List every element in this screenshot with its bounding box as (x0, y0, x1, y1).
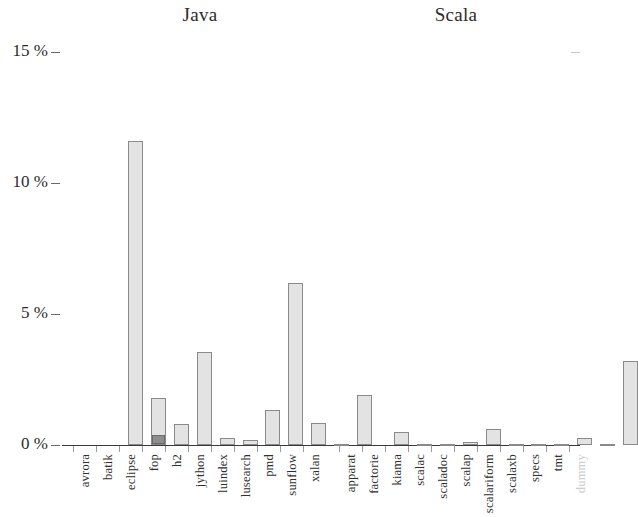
x-axis-tick-mark (234, 446, 235, 452)
bar (334, 444, 349, 446)
bar (623, 361, 638, 445)
x-axis-label-dummy: dummy (574, 454, 589, 493)
bar (417, 444, 432, 446)
x-axis-label-apparat: apparat (344, 454, 359, 492)
bar-dark-segment (152, 435, 165, 444)
bar (600, 444, 615, 446)
x-axis-label-scalac: scalac (413, 454, 428, 486)
x-axis-tick-mark (73, 446, 74, 452)
x-axis-tick-mark (280, 446, 281, 452)
x-axis-label-xalan: xalan (308, 454, 323, 482)
x-axis-tick-mark (211, 446, 212, 452)
x-axis-label-kiama: kiama (390, 454, 405, 486)
bar (531, 444, 546, 446)
x-axis-tick-mark (523, 446, 524, 452)
bar (577, 438, 592, 445)
x-axis-tick-mark (303, 446, 304, 452)
x-axis-tick-mark (257, 446, 258, 452)
bar (220, 438, 235, 445)
x-axis-tick-mark (454, 446, 455, 452)
bar (311, 423, 326, 445)
x-axis-label-batik: batik (101, 454, 116, 480)
y-axis-tick-label: 10 % (0, 172, 48, 192)
bar (174, 424, 189, 445)
bar (265, 410, 280, 445)
x-axis-label-scalap: scalap (459, 454, 474, 486)
x-axis-label-luindex: luindex (216, 454, 231, 493)
bar (128, 141, 143, 445)
x-axis-label-avrora: avrora (78, 454, 93, 487)
x-axis-tick-mark (477, 446, 478, 452)
x-axis-tick-mark (142, 446, 143, 452)
bar (463, 442, 478, 445)
x-axis-label-jython: jython (193, 454, 208, 487)
x-axis-label-factorie: factorie (367, 454, 382, 494)
y-axis-tick-label: 5 % (0, 303, 48, 323)
y-axis-tick-mark (51, 183, 60, 184)
group-heading-scala: Scala (396, 4, 516, 26)
y-axis-tick-mark (51, 314, 60, 315)
x-axis-tick-mark (500, 446, 501, 452)
bar (288, 283, 303, 445)
bar (357, 395, 372, 445)
bar (394, 432, 409, 445)
x-axis-tick-mark (408, 446, 409, 452)
x-axis-label-h2: h2 (170, 454, 185, 467)
x-axis-tick-mark (362, 446, 363, 452)
bar (554, 444, 569, 446)
x-axis-label-scalaxb: scalaxb (505, 454, 520, 493)
x-axis-tick-mark (188, 446, 189, 452)
x-axis-tick-mark (431, 446, 432, 452)
y-axis-tick-label: 0 % (0, 434, 48, 454)
x-axis-label-tmt: tmt (551, 454, 566, 471)
x-axis-tick-mark (96, 446, 97, 452)
x-axis-label-specs: specs (528, 454, 543, 482)
x-axis-tick-mark (569, 446, 570, 452)
x-axis-label-lusearch: lusearch (239, 454, 254, 497)
x-axis-label-eclipse: eclipse (124, 454, 139, 490)
x-axis-label-sunflow: sunflow (285, 454, 300, 496)
bar (151, 398, 166, 445)
bar (197, 352, 212, 445)
x-axis-tick-mark (119, 446, 120, 452)
plot-area (62, 40, 580, 446)
x-axis-tick-mark (165, 446, 166, 452)
x-axis-label-fop: fop (147, 454, 162, 471)
y-axis-tick-mark (51, 52, 60, 53)
y-axis-tick-label: 15 % (0, 41, 48, 61)
x-axis-label-pmd: pmd (262, 454, 277, 477)
x-axis-tick-mark (339, 446, 340, 452)
bar (440, 444, 455, 446)
x-axis-label-scalariform: scalariform (482, 454, 497, 513)
bar (509, 444, 524, 446)
y-axis-tick-mark (51, 445, 60, 446)
bar (243, 440, 258, 445)
x-axis-tick-mark (546, 446, 547, 452)
x-axis-label-scaladoc: scaladoc (436, 454, 451, 499)
group-heading-java: Java (140, 4, 260, 26)
x-axis-tick-mark (385, 446, 386, 452)
bar (486, 429, 501, 445)
